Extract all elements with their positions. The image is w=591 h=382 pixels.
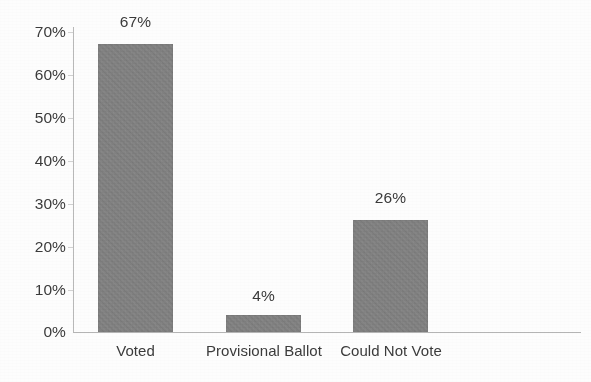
bar-could-not-vote[interactable] [353, 220, 428, 332]
y-axis-label-50: 50% [20, 110, 66, 126]
bar-voted[interactable] [98, 44, 173, 332]
bar-value-voted: 67% [98, 14, 173, 30]
bar-value-could-not-vote: 26% [353, 190, 428, 206]
y-axis-label-70: 70% [20, 24, 66, 40]
y-axis-line [73, 27, 74, 333]
y-axis-label-20: 20% [20, 239, 66, 255]
y-axis-label-40: 40% [20, 153, 66, 169]
plot-area: 70% 60% 50% 40% 30% 20% 10% 0% [0, 0, 591, 382]
bar-provisional-ballot[interactable] [226, 315, 301, 332]
category-label-voted: Voted [78, 343, 193, 358]
y-axis-label-0: 0% [20, 324, 66, 340]
category-label-provisional-ballot: Provisional Ballot [196, 343, 332, 358]
y-axis-label-30: 30% [20, 196, 66, 212]
category-label-could-not-vote: Could Not Vote [333, 343, 449, 358]
bar-chart: 70% 60% 50% 40% 30% 20% 10% 0% [0, 0, 591, 382]
y-axis-label-60: 60% [20, 67, 66, 83]
y-axis-label-10: 10% [20, 282, 66, 298]
bar-value-provisional-ballot: 4% [226, 288, 301, 304]
x-axis-line [73, 332, 581, 333]
